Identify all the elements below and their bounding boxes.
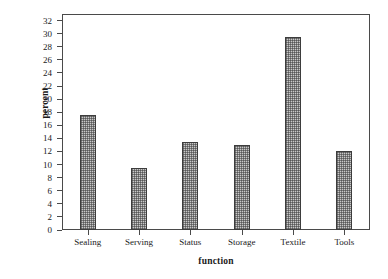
y-axis-tick: 32 <box>0 15 62 27</box>
y-axis-tick-label: 14 <box>8 132 52 144</box>
y-axis-tick: 2 <box>0 211 62 223</box>
y-axis-tick-mark <box>57 125 62 126</box>
x-axis-tick-label: Status <box>179 236 201 248</box>
y-axis-tick-label: 22 <box>8 80 52 92</box>
plot-area <box>62 14 370 230</box>
bar <box>285 37 301 230</box>
bar <box>80 115 96 230</box>
y-axis-tick-mark <box>57 177 62 178</box>
y-axis-tick-label: 18 <box>8 106 52 118</box>
x-axis-tick-mark <box>242 230 243 235</box>
y-axis-tick: 30 <box>0 28 62 40</box>
y-axis-tick: 10 <box>0 159 62 171</box>
x-axis-tick-label: Storage <box>228 236 256 248</box>
y-axis-tick-mark <box>57 216 62 217</box>
y-axis-tick-label: 10 <box>8 159 52 171</box>
x-axis-tick-mark <box>293 230 294 235</box>
y-axis-tick: 24 <box>0 67 62 79</box>
y-axis-tick-label: 24 <box>8 67 52 79</box>
x-axis-tick-label: Tools <box>334 236 354 248</box>
y-axis-tick: 6 <box>0 185 62 197</box>
y-axis-tick: 26 <box>0 54 62 66</box>
y-axis-tick-mark <box>57 20 62 21</box>
y-axis-tick-label: 26 <box>8 54 52 66</box>
y-axis-tick-label: 20 <box>8 93 52 105</box>
y-axis-tick: 0 <box>0 224 62 236</box>
bar <box>182 142 198 230</box>
y-axis-tick-mark <box>57 151 62 152</box>
y-axis-tick: 12 <box>0 145 62 157</box>
x-axis-tick-mark <box>190 230 191 235</box>
y-axis-tick-label: 0 <box>8 224 52 236</box>
y-axis-tick-mark <box>57 46 62 47</box>
y-axis-tick-label: 6 <box>8 185 52 197</box>
y-axis-tick-mark <box>57 164 62 165</box>
y-axis-tick: 16 <box>0 119 62 131</box>
y-axis-tick-mark <box>57 138 62 139</box>
y-axis-tick-mark <box>57 86 62 87</box>
y-axis-tick-label: 8 <box>8 172 52 184</box>
y-axis-tick: 4 <box>0 198 62 210</box>
y-axis-tick-label: 12 <box>8 145 52 157</box>
y-axis-tick-mark <box>57 203 62 204</box>
y-axis-tick: 8 <box>0 172 62 184</box>
y-axis-tick: 28 <box>0 41 62 53</box>
y-axis-tick: 22 <box>0 80 62 92</box>
y-axis-tick-label: 30 <box>8 28 52 40</box>
y-axis-tick-mark <box>57 59 62 60</box>
x-axis-tick-label: Textile <box>281 236 306 248</box>
bar <box>131 168 147 230</box>
y-axis-tick: 14 <box>0 132 62 144</box>
y-axis-tick-label: 32 <box>8 15 52 27</box>
y-axis-tick-label: 4 <box>8 198 52 210</box>
x-axis-tick-mark <box>139 230 140 235</box>
x-axis-tick-mark <box>88 230 89 235</box>
y-axis-tick-mark <box>57 33 62 34</box>
y-axis-tick-mark <box>57 230 62 231</box>
y-axis-tick: 20 <box>0 93 62 105</box>
y-axis-tick-label: 28 <box>8 41 52 53</box>
y-axis-tick-label: 2 <box>8 211 52 223</box>
x-axis-tick-mark <box>344 230 345 235</box>
x-axis-title: function <box>62 256 370 266</box>
x-axis-tick-label: Sealing <box>74 236 101 248</box>
y-axis-tick-mark <box>57 112 62 113</box>
y-axis-tick-label: 16 <box>8 119 52 131</box>
y-axis-tick-mark <box>57 99 62 100</box>
y-axis-tick-mark <box>57 190 62 191</box>
bar <box>234 145 250 230</box>
x-axis-tick-label: Serving <box>125 236 153 248</box>
bar <box>336 151 352 230</box>
y-axis-tick: 18 <box>0 106 62 118</box>
bar-chart: percent 02468101214161820222426283032 Se… <box>0 0 388 279</box>
y-axis-tick-mark <box>57 72 62 73</box>
